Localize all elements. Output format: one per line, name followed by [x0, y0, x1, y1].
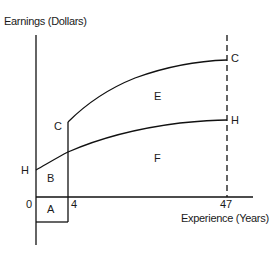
- region-e-label: E: [154, 90, 161, 102]
- tick-0: 0: [26, 198, 32, 210]
- h-end-label: H: [231, 114, 239, 126]
- h-curve: [36, 120, 227, 170]
- h-start-label: H: [21, 164, 29, 176]
- earnings-diagram: Earnings (Dollars) Experience (Years) 0 …: [0, 0, 280, 255]
- y-axis-title: Earnings (Dollars): [4, 15, 87, 27]
- region-f-label: F: [154, 152, 161, 164]
- region-b-label: B: [47, 172, 54, 184]
- x-axis-title: Experience (Years): [181, 212, 269, 224]
- region-a-label: A: [47, 203, 55, 215]
- c-curve: [68, 60, 227, 122]
- c-end-label: C: [231, 52, 239, 64]
- tick-4: 4: [71, 198, 77, 210]
- c-start-label: C: [54, 120, 62, 132]
- tick-47: 47: [220, 198, 232, 210]
